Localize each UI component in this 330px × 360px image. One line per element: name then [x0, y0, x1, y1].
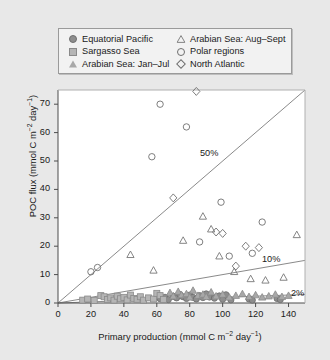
reference-label-pct2: 2%: [291, 288, 304, 298]
y-tick-label: 30: [30, 212, 50, 222]
data-point: [151, 296, 157, 302]
y-tick-label: 20: [30, 240, 50, 250]
x-axis-label: Primary production (mmol C m−2 day−1): [55, 330, 305, 342]
y-tick-label: 10: [30, 269, 50, 279]
figure-container: Equatorial PacificSargasso SeaArabian Se…: [0, 0, 330, 360]
y-tick-label: 40: [30, 183, 50, 193]
y-tick-label: 50: [30, 155, 50, 165]
x-tick-label: 60: [144, 309, 170, 319]
y-tick-label: 70: [30, 98, 50, 108]
y-tick-label: 0: [30, 297, 50, 307]
x-tick-label: 80: [177, 309, 203, 319]
x-tick-label: 40: [111, 309, 137, 319]
x-tick-label: 20: [78, 309, 104, 319]
x-tick-label: 100: [210, 309, 236, 319]
plot-area: POC flux (mmol C m−2 day−1) Primary prod…: [0, 0, 330, 360]
reference-label-pct10: 10%: [262, 254, 280, 264]
data-point: [85, 296, 91, 302]
x-tick-label: 140: [276, 309, 302, 319]
data-point: [91, 297, 97, 303]
data-point: [160, 297, 166, 303]
x-tick-label: 0: [45, 309, 71, 319]
y-tick-label: 60: [30, 127, 50, 137]
reference-label-pct50: 50%: [200, 148, 218, 158]
x-tick-label: 120: [243, 309, 269, 319]
